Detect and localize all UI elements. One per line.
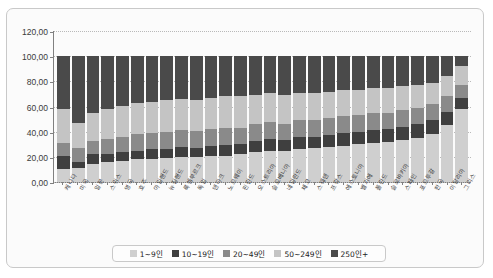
bar-segment[interactable] [205, 56, 218, 98]
stacked-bar[interactable] [160, 31, 173, 182]
legend-item[interactable]: 1~9인 [130, 248, 163, 259]
bar-segment[interactable] [396, 86, 409, 110]
stacked-bar[interactable] [411, 31, 424, 182]
bar-segment[interactable] [308, 93, 321, 121]
bar-segment[interactable] [455, 98, 468, 109]
bar-segment[interactable] [367, 113, 380, 129]
bar-segment[interactable] [293, 56, 306, 92]
bar-segment[interactable] [87, 141, 100, 155]
bar-segment[interactable] [234, 128, 247, 144]
stacked-bar[interactable] [264, 31, 277, 182]
stacked-bar[interactable] [396, 31, 409, 182]
bar-segment[interactable] [455, 85, 468, 98]
bar-segment[interactable] [441, 125, 454, 182]
bar-segment[interactable] [382, 88, 395, 113]
bar-segment[interactable] [396, 56, 409, 86]
bar-segment[interactable] [160, 149, 173, 158]
stacked-bar[interactable] [57, 31, 70, 182]
bar-segment[interactable] [352, 115, 365, 131]
stacked-bar[interactable] [175, 31, 188, 182]
stacked-bar[interactable] [205, 31, 218, 182]
legend-item[interactable]: 20~49인 [223, 248, 265, 259]
bar-segment[interactable] [57, 156, 70, 170]
bar-segment[interactable] [219, 128, 232, 145]
bar-segment[interactable] [293, 137, 306, 149]
bar-segment[interactable] [396, 127, 409, 141]
bar-segment[interactable] [131, 56, 144, 103]
bar-segment[interactable] [308, 56, 321, 92]
bar-segment[interactable] [293, 93, 306, 121]
bar-segment[interactable] [278, 140, 291, 151]
bar-segment[interactable] [441, 56, 454, 76]
bar-segment[interactable] [323, 118, 336, 134]
bar-segment[interactable] [278, 95, 291, 124]
bar-segment[interactable] [426, 104, 439, 120]
stacked-bar[interactable] [382, 31, 395, 182]
bar-segment[interactable] [264, 122, 277, 139]
bar-segment[interactable] [411, 56, 424, 85]
bar-segment[interactable] [249, 141, 262, 152]
bar-segment[interactable] [116, 137, 129, 153]
bar-segment[interactable] [264, 56, 277, 92]
bar-segment[interactable] [455, 56, 468, 66]
stacked-bar[interactable] [190, 31, 203, 182]
bar-segment[interactable] [293, 120, 306, 137]
stacked-bar[interactable] [441, 31, 454, 182]
bar-segment[interactable] [352, 90, 365, 116]
bar-segment[interactable] [160, 56, 173, 100]
bar-segment[interactable] [411, 124, 424, 138]
stacked-bar[interactable] [72, 31, 85, 182]
stacked-bar[interactable] [337, 31, 350, 182]
stacked-bar[interactable] [426, 31, 439, 182]
bar-segment[interactable] [264, 139, 277, 151]
bar-segment[interactable] [72, 56, 85, 123]
stacked-bar[interactable] [146, 31, 159, 182]
stacked-bar[interactable] [323, 31, 336, 182]
bar-segment[interactable] [308, 120, 321, 136]
bar-segment[interactable] [57, 109, 70, 143]
bar-segment[interactable] [249, 124, 262, 140]
stacked-bar[interactable] [293, 31, 306, 182]
bar-segment[interactable] [426, 83, 439, 104]
bar-segment[interactable] [87, 56, 100, 113]
bar-segment[interactable] [426, 120, 439, 134]
bar-segment[interactable] [146, 56, 159, 101]
bar-segment[interactable] [87, 113, 100, 141]
bar-segment[interactable] [146, 102, 159, 133]
stacked-bar[interactable] [234, 31, 247, 182]
bar-segment[interactable] [396, 110, 409, 126]
bar-segment[interactable] [455, 66, 468, 84]
stacked-bar[interactable] [101, 31, 114, 182]
bar-segment[interactable] [190, 131, 203, 148]
bar-segment[interactable] [382, 129, 395, 142]
bar-segment[interactable] [175, 56, 188, 99]
bar-segment[interactable] [323, 92, 336, 118]
bar-segment[interactable] [57, 56, 70, 109]
bar-segment[interactable] [205, 98, 218, 129]
bar-segment[interactable] [441, 76, 454, 96]
bar-segment[interactable] [234, 96, 247, 127]
stacked-bar[interactable] [352, 31, 365, 182]
stacked-bar[interactable] [308, 31, 321, 182]
bar-segment[interactable] [116, 56, 129, 106]
bar-segment[interactable] [323, 56, 336, 92]
bar-segment[interactable] [101, 56, 114, 109]
bar-segment[interactable] [175, 130, 188, 146]
bar-segment[interactable] [337, 116, 350, 133]
bar-segment[interactable] [146, 149, 159, 158]
stacked-bar[interactable] [87, 31, 100, 182]
bar-segment[interactable] [411, 108, 424, 124]
bar-segment[interactable] [116, 152, 129, 160]
bar-segment[interactable] [131, 151, 144, 160]
bar-segment[interactable] [72, 123, 85, 148]
bar-segment[interactable] [205, 146, 218, 156]
bar-segment[interactable] [352, 56, 365, 89]
stacked-bar[interactable] [455, 31, 468, 182]
bar-segment[interactable] [160, 132, 173, 149]
bar-segment[interactable] [411, 85, 424, 108]
bar-segment[interactable] [441, 96, 454, 111]
bar-segment[interactable] [175, 99, 188, 130]
bar-segment[interactable] [278, 56, 291, 94]
legend-item[interactable]: 50~249인 [274, 248, 321, 259]
bar-segment[interactable] [131, 134, 144, 150]
